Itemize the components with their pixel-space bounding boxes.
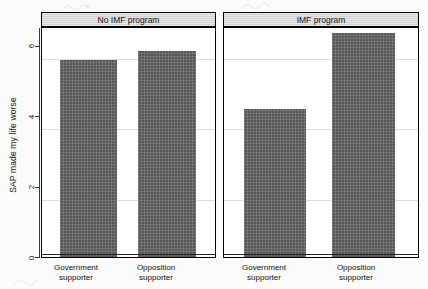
y-tick-label-2: 2 (26, 185, 35, 189)
y-tick-label-0: 0 (26, 255, 35, 259)
x-label-line2: supporter (322, 273, 390, 283)
x-label-line1: Government (42, 263, 110, 273)
y-axis-title-text: SAP made my life worse (8, 97, 18, 193)
bar-imf-government-supporter (244, 109, 306, 258)
panel-imf-program: IMF program (223, 12, 419, 258)
panel-strip-label: No IMF program (98, 15, 160, 25)
y-axis-spine (39, 28, 40, 258)
scan-artifact-top-right (240, 1, 276, 11)
scan-artifact-top-left (62, 2, 102, 12)
x-label-line2: supporter (42, 273, 110, 283)
x-axis-labels: Government supporter Opposition supporte… (0, 261, 428, 289)
panel-strip-label: IMF program (297, 15, 346, 25)
bar-imf-opposition-supporter (332, 33, 395, 258)
bar-no-imf-opposition-supporter (138, 51, 196, 258)
panel-strip-no-imf-program: No IMF program (41, 12, 216, 27)
bar-no-imf-government-supporter (60, 60, 117, 258)
x-label-line1: Opposition (322, 263, 390, 273)
chart-root: SAP made my life worse 6 4 2 0 No IMF pr… (0, 0, 428, 289)
y-axis-title: SAP made my life worse (2, 0, 24, 289)
x-label-line1: Government (230, 263, 298, 273)
x-label-imf-opposition: Opposition supporter (322, 263, 390, 282)
plot-area-imf (223, 27, 419, 258)
y-axis: 6 4 2 0 (24, 0, 40, 289)
y-tick-label-4: 4 (26, 114, 35, 118)
x-label-line1: Opposition (122, 263, 190, 273)
panel-baseline-left (41, 254, 216, 255)
x-label-line2: supporter (230, 273, 298, 283)
x-label-no-imf-opposition: Opposition supporter (122, 263, 190, 282)
panel-baseline-right (223, 254, 419, 255)
x-label-imf-government: Government supporter (230, 263, 298, 282)
x-label-no-imf-government: Government supporter (42, 263, 110, 282)
y-tick-label-6: 6 (26, 44, 35, 48)
x-label-line2: supporter (122, 273, 190, 283)
plot-area-no-imf (41, 27, 216, 258)
panel-no-imf-program: No IMF program (41, 12, 216, 258)
panel-strip-imf-program: IMF program (223, 12, 419, 27)
